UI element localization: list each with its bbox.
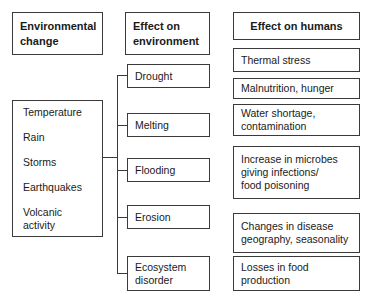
human-effect-microbes: Increase in microbes giving infections/ … (233, 146, 360, 199)
connector-trunk (117, 75, 118, 274)
connector-line (103, 157, 118, 158)
environmental-change-list: Temperature Rain Storms Earthquakes Volc… (12, 100, 103, 237)
human-effect-water-shortage: Water shortage, contamination (233, 104, 360, 136)
env-effect-flooding: Flooding (127, 158, 210, 182)
env-effect-drought: Drought (127, 64, 210, 88)
human-effect-food-losses: Losses in food production (233, 256, 360, 291)
env-change-item: Storms (23, 156, 56, 169)
header-effect-on-humans: Effect on humans (233, 12, 360, 40)
env-change-item: Earthquakes (23, 181, 82, 194)
connector-branch (117, 125, 127, 126)
human-effect-thermal-stress: Thermal stress (233, 48, 360, 72)
human-effect-disease-geography: Changes in disease geography, seasonalit… (233, 213, 360, 253)
connector-branch (117, 75, 127, 76)
header-environmental-change: Environmental change (12, 12, 103, 55)
connector-branch (117, 273, 127, 274)
env-change-item: Volcanic activity (23, 206, 95, 232)
connector-branch (117, 170, 127, 171)
env-effect-melting: Melting (127, 113, 210, 137)
env-change-item: Rain (23, 131, 45, 144)
connector-branch (117, 217, 127, 218)
human-effect-malnutrition: Malnutrition, hunger (233, 78, 360, 99)
env-effect-ecosystem-disorder: Ecosystem disorder (127, 256, 210, 291)
header-effect-on-environment: Effect on environment (125, 12, 210, 55)
env-effect-erosion: Erosion (127, 205, 210, 229)
env-change-item: Temperature (23, 106, 82, 119)
